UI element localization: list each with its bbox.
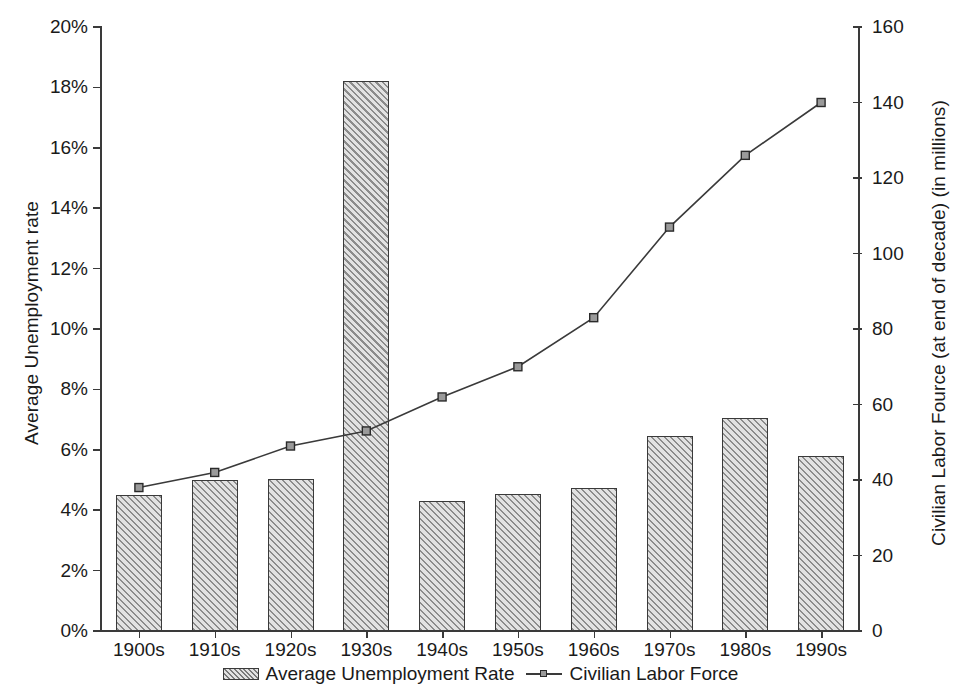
chart-legend: Average Unemployment RateCivilian Labor … (0, 663, 961, 685)
bar (571, 488, 617, 631)
line-marker (287, 442, 295, 450)
bar (495, 494, 541, 631)
y-tick-label-right: 60 (872, 395, 932, 414)
x-tick-mark (745, 631, 747, 638)
x-tick-label: 1990s (771, 640, 871, 659)
bar (268, 479, 314, 632)
line-marker (590, 314, 598, 322)
line-marker (741, 151, 749, 159)
bar (647, 436, 693, 631)
civilian-labor-force-line (139, 103, 821, 488)
y-tick-label-left: 14% (0, 198, 88, 217)
line-marker (666, 223, 674, 231)
line-marker (514, 363, 522, 371)
y-tick-label-right: 100 (872, 244, 932, 263)
legend-label: Average Unemployment Rate (266, 663, 515, 685)
x-tick-mark (518, 631, 520, 638)
x-tick-mark (291, 631, 293, 638)
y-tick-label-right: 80 (872, 319, 932, 338)
line-marker (817, 99, 825, 107)
line-marker (211, 468, 219, 476)
bar (722, 418, 768, 631)
x-tick-mark (821, 631, 823, 638)
y-tick-label-right: 0 (872, 621, 932, 640)
legend-item: Average Unemployment Rate (223, 663, 515, 685)
x-tick-mark (442, 631, 444, 638)
x-tick-mark (670, 631, 672, 638)
y-tick-label-left: 8% (0, 379, 88, 398)
bar (116, 495, 162, 631)
x-tick-mark (139, 631, 141, 638)
x-tick-mark (215, 631, 217, 638)
y-tick-label-left: 18% (0, 77, 88, 96)
y-tick-label-left: 16% (0, 138, 88, 157)
y-tick-label-right: 120 (872, 168, 932, 187)
y-tick-label-left: 10% (0, 319, 88, 338)
line-marker (135, 484, 143, 492)
y-tick-label-left: 0% (0, 621, 88, 640)
y-tick-label-left: 4% (0, 500, 88, 519)
bar (419, 501, 465, 631)
legend-item: Civilian Labor Force (526, 663, 738, 685)
y-tick-label-left: 20% (0, 17, 88, 36)
chart-container: Average Unemployment rate Civilian Labor… (0, 0, 961, 700)
y-tick-label-right: 20 (872, 546, 932, 565)
y-tick-label-right: 160 (872, 17, 932, 36)
x-tick-mark (366, 631, 368, 638)
line-marker (438, 393, 446, 401)
legend-label: Civilian Labor Force (569, 663, 738, 685)
y-tick-label-right: 140 (872, 93, 932, 112)
plot-area (101, 27, 859, 631)
x-tick-mark (594, 631, 596, 638)
bar (798, 456, 844, 631)
y-tick-label-left: 2% (0, 561, 88, 580)
legend-line-marker-icon (526, 668, 562, 680)
bar (343, 81, 389, 631)
bar (192, 480, 238, 631)
y-tick-label-left: 12% (0, 259, 88, 278)
y-tick-label-right: 40 (872, 470, 932, 489)
legend-bar-swatch-icon (223, 668, 259, 680)
y-tick-label-left: 6% (0, 440, 88, 459)
